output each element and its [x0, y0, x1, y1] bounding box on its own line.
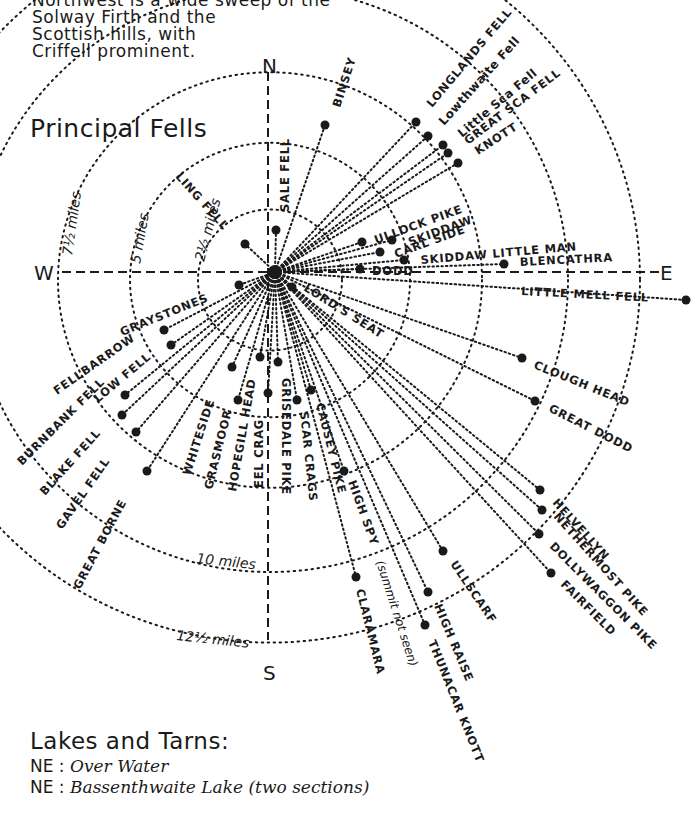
- ring-label-10: 10 miles: [196, 550, 257, 572]
- viewpoint-center-icon: [268, 265, 282, 279]
- lakes-title: Lakes and Tarns:: [30, 728, 369, 754]
- fell-dot-icon: [682, 296, 691, 305]
- fell-dot-icon: [376, 248, 385, 257]
- fell-dot-icon: [143, 467, 152, 476]
- fell-label-scar-crags: SCAR CRAGS: [297, 411, 320, 502]
- fell-dot-icon: [531, 397, 540, 406]
- ring-label-5: 5 miles: [127, 212, 152, 265]
- fell-label-dodd: DODD: [372, 264, 414, 278]
- sight-line: [275, 272, 425, 625]
- lake-direction: NE: [30, 777, 53, 797]
- fell-dot-icon: [424, 132, 433, 141]
- fell-dot-icon: [538, 506, 547, 515]
- lake-item: NE : Over Water: [30, 756, 369, 777]
- fell-label-great-dodd: GREAT DODD: [547, 401, 636, 455]
- fell-dot-icon: [264, 389, 273, 398]
- ring-label-7-5: 7½ miles: [59, 191, 84, 257]
- fell-label-eel-crag: EEL CRAG: [252, 419, 266, 488]
- fell-dot-icon: [358, 238, 367, 247]
- compass-east: E: [660, 261, 673, 285]
- fell-label-little-mell-fell: LITTLE MELL FELL: [521, 284, 649, 305]
- compass-south: S: [263, 661, 276, 685]
- compass-north: N: [262, 54, 277, 78]
- radial-fell-diagram: N S E W 2½ miles 5 miles 7½ miles 10 mil…: [0, 0, 698, 824]
- sight-line: [125, 272, 275, 395]
- fell-dot-icon: [439, 141, 448, 150]
- fell-dot-icon: [424, 588, 433, 597]
- fell-label-great-borne: GREAT BORNE: [70, 497, 129, 592]
- lake-name: Over Water: [70, 756, 168, 776]
- fell-dot-icon: [547, 569, 556, 578]
- fell-dot-icon: [321, 121, 330, 130]
- lake-direction: NE: [30, 756, 53, 776]
- fell-label-binsey: BINSEY: [330, 55, 359, 109]
- fell-dot-icon: [288, 283, 297, 292]
- fell-dot-icon: [454, 159, 463, 168]
- lakes-and-tarns: Lakes and Tarns: NE : Over Water NE : Ba…: [30, 728, 369, 798]
- fell-dot-icon: [444, 149, 453, 158]
- fell-dot-icon: [132, 428, 141, 437]
- fell-dot-icon: [352, 573, 361, 582]
- fell-dot-icon: [518, 354, 527, 363]
- compass-west: W: [34, 261, 54, 285]
- fell-dot-icon: [535, 530, 544, 539]
- ring-label-12-5: 12½ miles: [176, 627, 250, 651]
- fell-dot-icon: [228, 363, 237, 372]
- fell-dot-icon: [412, 118, 421, 127]
- fell-dot-icon: [118, 411, 127, 420]
- fell-dot-icon: [272, 226, 281, 235]
- fell-label-grisedale-pike: GRISEDALE PIKE: [279, 378, 293, 495]
- sight-line: [275, 272, 551, 573]
- fell-dot-icon: [356, 265, 365, 274]
- lake-item: NE : Bassenthwaite Lake (two sections): [30, 777, 369, 798]
- fell-dot-icon: [241, 240, 250, 249]
- lake-name: Bassenthwaite Lake (two sections): [70, 777, 369, 797]
- fell-dot-icon: [274, 358, 283, 367]
- fell-label-clough-head: CLOUGH HEAD: [532, 358, 632, 409]
- fell-dot-icon: [256, 353, 265, 362]
- view-diagram: Northwest is a wide sweep of the Solway …: [0, 0, 698, 824]
- fell-label-sale-fell: SALE FELL: [278, 138, 292, 212]
- fell-dot-icon: [307, 386, 316, 395]
- fell-label-ullscarf: ULLSCARF: [448, 558, 500, 626]
- fell-labels: BINSEY LONGLANDS FELL Lowthwaite Fell Li…: [14, 5, 660, 764]
- fell-dot-icon: [500, 260, 509, 269]
- fell-dot-icon: [167, 341, 176, 350]
- fell-dot-icon: [160, 326, 169, 335]
- fell-dot-icon: [439, 547, 448, 556]
- fell-dot-icon: [421, 621, 430, 630]
- fell-dot-icon: [536, 486, 545, 495]
- fell-dot-icon: [235, 281, 244, 290]
- fell-dot-icon: [121, 391, 130, 400]
